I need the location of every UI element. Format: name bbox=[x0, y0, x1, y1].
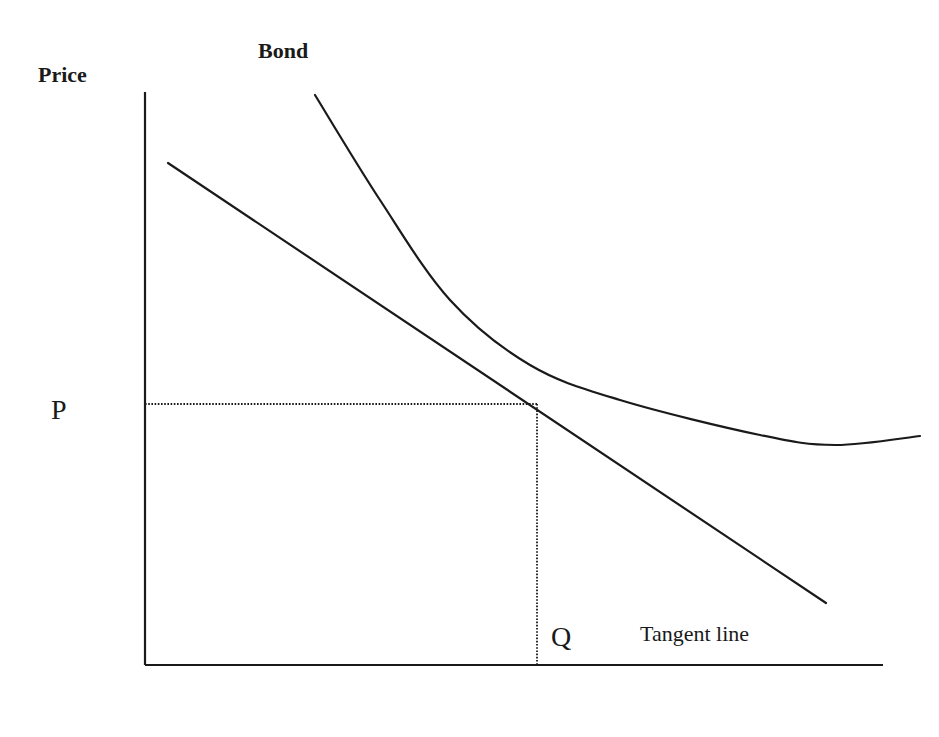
diagram-plot bbox=[0, 0, 939, 737]
price-marker-label: P bbox=[51, 396, 67, 424]
diagram-title: Bond bbox=[258, 40, 308, 62]
quantity-marker-label: Q bbox=[551, 623, 571, 651]
tangent-line bbox=[168, 163, 826, 603]
bond-price-curve bbox=[315, 95, 920, 445]
y-axis-label: Price bbox=[38, 64, 87, 86]
bond-price-diagram: Price Bond P Q Tangent line bbox=[0, 0, 939, 737]
tangent-line-label: Tangent line bbox=[640, 623, 749, 645]
